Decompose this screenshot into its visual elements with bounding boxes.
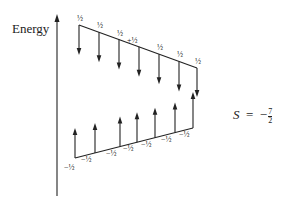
up-arrow: −½ bbox=[106, 117, 122, 158]
arrow-down-icon bbox=[195, 90, 200, 97]
spin-label: ½ bbox=[195, 57, 201, 66]
arrow-up-icon bbox=[153, 108, 158, 115]
axis-arrowhead-icon bbox=[55, 14, 60, 22]
formula-fraction: 72 bbox=[268, 108, 272, 125]
spin-energy-diagram: ½½½+½½½½ −½−½−½−½−½−½−½ bbox=[0, 0, 285, 204]
down-arrow: ½ bbox=[97, 21, 103, 62]
arrow-up-icon bbox=[93, 123, 98, 130]
down-arrow: ½ bbox=[117, 29, 123, 70]
arrow-up-icon bbox=[73, 128, 78, 135]
spin-label: ½ bbox=[77, 14, 83, 23]
formula-sign: − bbox=[260, 107, 267, 122]
up-arrow: −½ bbox=[81, 123, 97, 164]
spin-label: ½ bbox=[177, 50, 183, 59]
spin-label: ½ bbox=[157, 43, 163, 52]
arrow-down-icon bbox=[177, 84, 182, 91]
spin-total-formula: S = −72 bbox=[233, 107, 272, 125]
formula-symbol: S bbox=[233, 107, 240, 122]
spin-label: +½ bbox=[127, 36, 138, 45]
down-arrow: +½ bbox=[127, 36, 141, 77]
down-arrow: ½ bbox=[157, 43, 163, 84]
arrow-down-icon bbox=[157, 77, 162, 84]
up-arrow: −½ bbox=[141, 108, 157, 149]
arrow-down-icon bbox=[97, 55, 102, 62]
arrow-down-icon bbox=[117, 63, 122, 70]
spin-label: −½ bbox=[81, 155, 92, 164]
fraction-denominator: 2 bbox=[268, 117, 272, 125]
spin-label: −½ bbox=[106, 149, 117, 158]
down-arrow: ½ bbox=[77, 14, 83, 55]
down-arrows-group: ½½½+½½½½ bbox=[77, 14, 201, 97]
arrow-up-icon bbox=[118, 117, 123, 124]
up-arrow: −½ bbox=[179, 92, 195, 139]
arrow-up-icon bbox=[191, 92, 196, 99]
energy-axis bbox=[55, 14, 60, 196]
spin-label: −½ bbox=[161, 135, 172, 144]
formula-equals: = bbox=[246, 107, 253, 122]
arrow-down-icon bbox=[137, 70, 142, 77]
spin-label: −½ bbox=[123, 144, 134, 153]
arrow-up-icon bbox=[173, 103, 178, 110]
arrow-up-icon bbox=[135, 112, 140, 119]
spin-label: −½ bbox=[179, 130, 190, 139]
arrow-down-icon bbox=[77, 48, 82, 55]
spin-label: −½ bbox=[141, 140, 152, 149]
spin-label: ½ bbox=[97, 21, 103, 30]
down-arrow: ½ bbox=[177, 50, 183, 91]
up-arrow: −½ bbox=[161, 103, 177, 144]
spin-label: −½ bbox=[64, 163, 75, 172]
up-arrow: −½ bbox=[64, 128, 77, 172]
down-arrow: ½ bbox=[195, 57, 201, 97]
up-arrow: −½ bbox=[123, 112, 139, 153]
spin-label: ½ bbox=[117, 29, 123, 38]
